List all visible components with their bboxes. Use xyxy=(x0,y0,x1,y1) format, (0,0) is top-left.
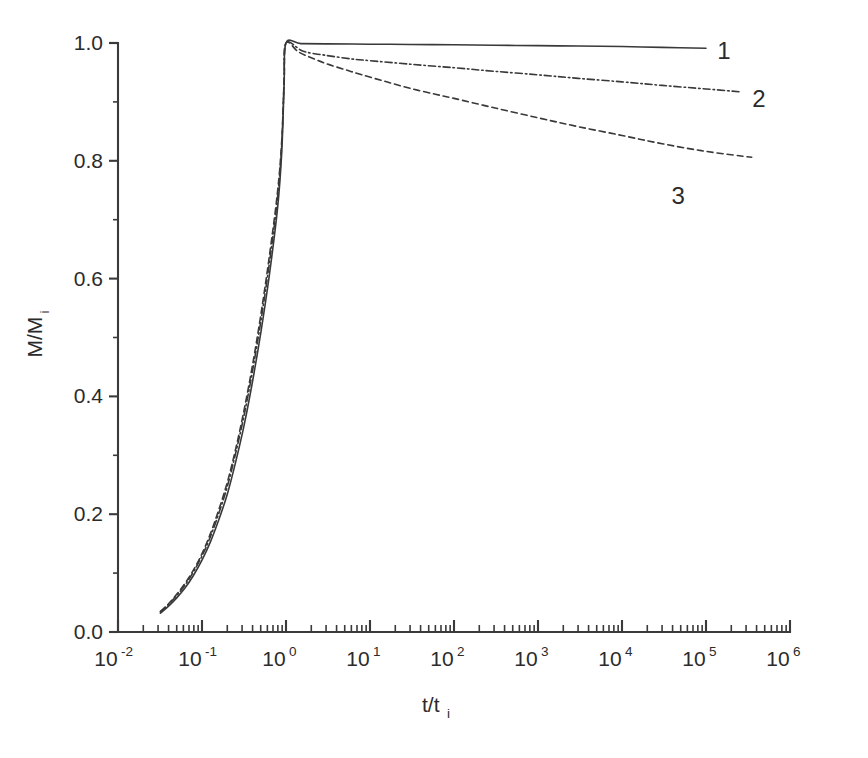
x-axis-label: t/ti xyxy=(422,693,450,721)
x-tick-label: 101 xyxy=(346,644,380,670)
x-tick-mantissa: 10 xyxy=(430,647,453,670)
line-chart-svg: 0.00.20.40.60.81.010-210-110010110210310… xyxy=(0,0,868,758)
x-tick-exponent: 2 xyxy=(457,644,465,659)
x-tick-label: 106 xyxy=(766,644,800,670)
curve-2 xyxy=(160,42,740,612)
x-tick-mantissa: 10 xyxy=(346,647,369,670)
chart-figure: 0.00.20.40.60.81.010-210-110010110210310… xyxy=(0,0,868,758)
x-axis-label-text: t/t xyxy=(422,693,440,716)
y-tick-label: 0.6 xyxy=(74,267,103,290)
y-tick-label: 1.0 xyxy=(74,31,103,54)
x-tick-mantissa: 10 xyxy=(94,647,117,670)
y-axis-label-text: M/M xyxy=(23,317,46,358)
axis-spines xyxy=(118,43,790,632)
x-tick-mantissa: 10 xyxy=(598,647,621,670)
x-tick-exponent: 0 xyxy=(289,644,297,659)
curve-label-2: 2 xyxy=(752,85,765,112)
x-tick-label: 10-1 xyxy=(178,644,217,670)
x-axis-label-subscript: i xyxy=(447,706,450,721)
curve-label-1: 1 xyxy=(717,37,730,64)
curve-label-3: 3 xyxy=(671,182,684,209)
y-axis-label: M/Mi xyxy=(23,311,52,358)
y-tick-label: 0.2 xyxy=(74,502,103,525)
x-tick-label: 102 xyxy=(430,644,464,670)
x-tick-exponent: -2 xyxy=(121,644,133,659)
axes: 0.00.20.40.60.81.010-210-110010110210310… xyxy=(74,31,801,670)
x-tick-mantissa: 10 xyxy=(178,647,201,670)
x-tick-mantissa: 10 xyxy=(514,647,537,670)
y-tick-label: 0.0 xyxy=(74,620,103,643)
x-tick-exponent: 6 xyxy=(793,644,801,659)
curve-3 xyxy=(160,42,751,611)
x-tick-exponent: 5 xyxy=(709,644,717,659)
y-tick-label: 0.8 xyxy=(74,149,103,172)
curve-annotations: 123 xyxy=(671,37,765,209)
y-tick-label: 0.4 xyxy=(74,384,104,407)
x-tick-label: 104 xyxy=(598,644,633,670)
x-tick-label: 10-2 xyxy=(94,644,133,670)
x-tick-mantissa: 10 xyxy=(682,647,705,670)
data-curves xyxy=(160,40,751,613)
curve-1 xyxy=(160,40,706,613)
x-tick-mantissa: 10 xyxy=(766,647,789,670)
x-tick-exponent: -1 xyxy=(205,644,217,659)
x-tick-mantissa: 10 xyxy=(262,647,285,670)
x-tick-label: 100 xyxy=(262,644,296,670)
x-tick-exponent: 4 xyxy=(625,644,633,659)
x-tick-exponent: 1 xyxy=(373,644,381,659)
x-tick-exponent: 3 xyxy=(541,644,549,659)
x-tick-label: 105 xyxy=(682,644,716,670)
x-tick-label: 103 xyxy=(514,644,548,670)
y-axis-label-subscript: i xyxy=(37,311,52,314)
